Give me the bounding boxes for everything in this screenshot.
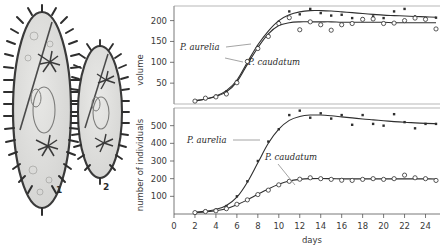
data-point [340,14,342,16]
data-point [393,113,395,115]
data-point [214,209,218,213]
data-point [224,92,228,96]
data-point [435,16,437,18]
data-point [320,112,322,114]
data-point [371,17,375,21]
data-point [256,46,260,50]
data-point [298,28,302,32]
data-point [214,95,218,99]
data-point [424,123,426,125]
data-point [246,180,248,182]
data-point [371,177,375,181]
x-tick-label: 8 [255,221,260,231]
population-curve-p-aurelia [195,115,436,212]
data-point [413,176,417,180]
paramecium-small: 2 [71,40,129,192]
y-tick-label: 100 [151,57,167,67]
data-point [288,114,290,116]
x-tick-label: 4 [213,221,218,231]
data-point [224,207,228,211]
data-point [403,8,405,10]
data-point [361,17,365,21]
x-tick-label: 6 [234,221,239,231]
data-point [351,124,353,126]
data-point [434,178,438,182]
y-tick-label: 400 [151,138,167,148]
y-tick-label: 500 [151,121,167,131]
data-point [402,18,406,22]
data-point [319,177,323,181]
data-point [266,34,270,38]
data-point [329,28,333,32]
data-point [423,177,427,181]
volume-chart: volume 50100150200 P. aurelia P. caudatu… [135,6,440,104]
data-point [320,12,322,14]
paramecium-illustrations: 1 [0,0,132,248]
data-point [434,27,438,31]
data-point [245,198,249,202]
data-point [435,123,437,125]
data-point [350,21,354,25]
data-point [413,16,417,20]
y-tick-label: 150 [151,36,167,46]
data-point [298,177,302,181]
y-tick-label: 300 [151,156,167,166]
data-point [308,20,312,24]
population-chart-ylabel: number of individuals [135,118,145,211]
data-point [392,177,396,181]
x-tick-label: 12 [294,221,305,231]
x-tick-label: 16 [336,221,347,231]
data-point [340,23,344,27]
data-point [351,17,353,19]
paramecium-large-number: 1 [56,185,62,195]
y-tick-label: 100 [151,191,167,201]
data-point [235,202,239,206]
data-point [203,209,207,213]
volume-curve-p-aurelia [195,10,436,100]
y-tick-label: 50 [156,78,167,88]
data-point [361,177,365,181]
y-tick-label: 200 [151,174,167,184]
data-point [309,8,311,10]
data-point [299,13,301,15]
data-point [277,21,281,25]
data-point [392,21,396,25]
data-point [309,117,311,119]
data-point [308,176,312,180]
x-tick-label: 2 [192,221,197,231]
x-tick-label: 14 [315,221,326,231]
volume-chart-y-ticks: 50100150200 [151,16,174,89]
x-tick-label: 20 [378,221,389,231]
data-point [288,10,290,12]
data-point [287,16,291,20]
x-tick-label: 22 [399,221,410,231]
data-point [423,17,427,21]
data-point [235,81,239,85]
x-tick-label: 10 [273,221,284,231]
data-point [402,173,406,177]
growth-charts: volume 50100150200 P. aurelia P. caudatu… [132,0,444,248]
data-point [236,195,238,197]
data-point [340,114,342,116]
paramecium-large: 1 [4,5,80,215]
data-point [393,10,395,12]
data-point [193,210,197,214]
data-point [382,177,386,181]
data-point [330,117,332,119]
volume-chart-ylabel: volume [135,54,145,86]
data-point [203,96,207,100]
paramecium-small-pellicle [78,46,122,178]
population-chart: number of individuals 100200300400500 02… [135,108,440,245]
data-point [267,140,269,142]
y-tick-label: 200 [151,16,167,26]
data-point [256,192,260,196]
population-curve-p-caudatum [195,178,436,212]
data-point [414,127,416,129]
data-point [299,109,301,111]
volume-curve-p-caudatum [195,22,436,101]
population-chart-label-p-aurelia: P. aurelia [186,135,227,145]
data-point [382,124,384,126]
data-point [257,160,259,162]
data-point [266,188,270,192]
data-point [319,23,323,27]
